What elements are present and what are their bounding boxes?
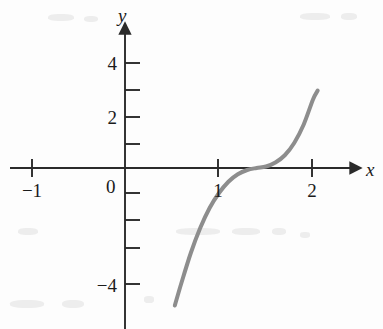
x-tick-label-1: 1	[213, 181, 223, 200]
y-tick-label-2: 2	[95, 108, 117, 127]
y-tick-label--4: −4	[85, 276, 117, 295]
origin-label: 0	[106, 177, 116, 196]
x-tick-label--1: −1	[22, 181, 42, 200]
x-tick-label-2: 2	[307, 181, 317, 200]
plot-canvas	[0, 0, 383, 329]
graph-figure: −1 1 2 0 4 2 −4 x y	[0, 0, 383, 329]
curve-cubic	[175, 91, 318, 306]
y-tick-label-4: 4	[95, 54, 117, 73]
x-axis-label: x	[366, 160, 374, 179]
y-axis-label: y	[118, 6, 126, 25]
